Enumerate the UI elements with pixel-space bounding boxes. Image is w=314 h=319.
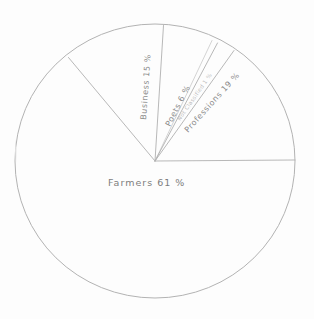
divider-professions-farmers xyxy=(155,51,234,162)
divider-farmers-start xyxy=(155,160,295,161)
slice-label-business: Business 15 % xyxy=(139,54,153,120)
slice-label-farmers: Farmers 61 % xyxy=(108,177,185,188)
pie-chart-figure: Farmers 61 % Business 15 % Poets 6 % Not… xyxy=(0,0,314,319)
divider-business-poets xyxy=(155,26,164,162)
pie-chart-drawing: Farmers 61 % Business 15 % Poets 6 % Not… xyxy=(0,0,314,319)
